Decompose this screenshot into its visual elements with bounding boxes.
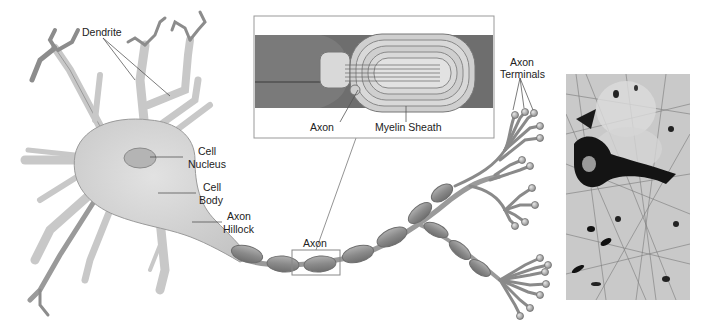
neuron-micrograph — [566, 74, 690, 300]
cell-nucleus — [124, 148, 156, 168]
axon-terminals-label-1: Axon — [510, 56, 534, 68]
micrograph-image — [566, 74, 690, 300]
neuron-diagram: Axon Myelin Sheath Dendrite Cell Nucleus… — [0, 0, 706, 334]
cell-body-label-1: Cell — [203, 181, 221, 193]
zoom-leader-line — [316, 138, 356, 250]
axon-terminals-label-2: Terminals — [500, 68, 545, 80]
dendrite-label: Dendrite — [82, 26, 122, 38]
inset-axon-label: Axon — [310, 121, 334, 133]
axon-hillock-label-2: Hillock — [223, 223, 255, 235]
axon-terminals — [455, 112, 548, 315]
axon-hillock-label-1: Axon — [227, 210, 251, 222]
cell-nucleus-label-2: Nucleus — [188, 158, 226, 170]
cell-body-label-2: Body — [199, 194, 224, 206]
myelin-inset: Axon Myelin Sheath — [254, 16, 494, 138]
axon-label: Axon — [303, 237, 327, 249]
cell-nucleus-label-1: Cell — [198, 145, 216, 157]
inset-myelin-sheath-label: Myelin Sheath — [375, 121, 442, 133]
